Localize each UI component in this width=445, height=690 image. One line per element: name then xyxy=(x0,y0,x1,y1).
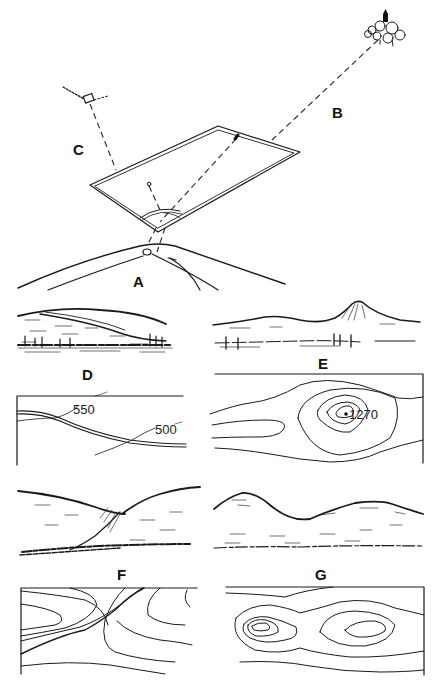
terrain-illustration: A B C D xyxy=(0,0,445,690)
label-a: A xyxy=(133,273,144,290)
panel-e-map: 1270 xyxy=(210,374,423,463)
church-and-trees-icon xyxy=(365,9,406,46)
contour-label-550: 550 xyxy=(73,402,95,417)
label-f: F xyxy=(117,566,126,583)
panel-g-map xyxy=(226,587,424,675)
sight-line-b xyxy=(272,40,378,140)
panel-g-landscape: G xyxy=(214,493,423,583)
orientation-scene: A B C xyxy=(18,9,405,290)
observer-icon xyxy=(143,249,151,255)
pylon-icon xyxy=(63,87,108,103)
panel-f-map xyxy=(21,588,197,674)
spot-height-label: 1270 xyxy=(349,407,378,422)
label-d: D xyxy=(82,366,93,383)
label-c: C xyxy=(73,141,84,158)
panel-d-map: 550 500 xyxy=(17,392,186,465)
map-sheet xyxy=(90,126,300,232)
contour-label-500: 500 xyxy=(155,422,177,437)
label-e: E xyxy=(318,355,328,372)
panel-d-landscape: D xyxy=(18,309,172,383)
panel-e-landscape: E xyxy=(213,301,420,372)
sight-line-c xyxy=(90,104,116,170)
spot-height-marker xyxy=(344,412,348,416)
ground-roads xyxy=(18,244,285,290)
label-g: G xyxy=(315,566,327,583)
label-b: B xyxy=(332,104,343,121)
panel-f-landscape: F xyxy=(18,487,200,583)
